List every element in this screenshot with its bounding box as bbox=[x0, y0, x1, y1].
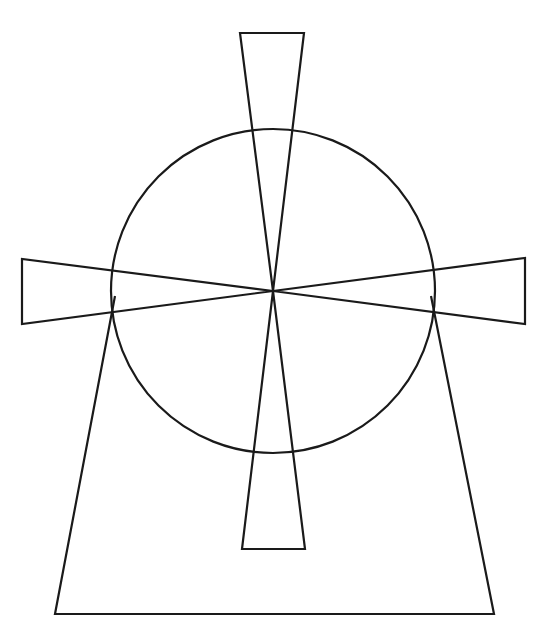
blade-left bbox=[22, 259, 273, 324]
windmill-diagram bbox=[0, 0, 543, 633]
blade-top bbox=[240, 33, 304, 291]
blade-bottom bbox=[242, 291, 305, 549]
diagram-svg bbox=[0, 0, 543, 633]
blade-right bbox=[273, 258, 525, 324]
